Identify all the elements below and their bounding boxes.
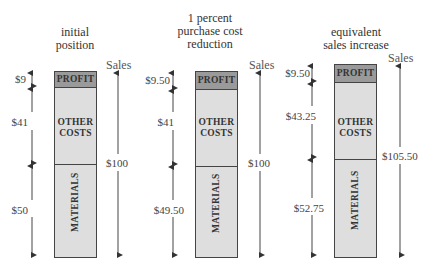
dimension-arrows	[280, 0, 430, 272]
panel-purchase-cost-reduction: 1 percent purchase cost reduction Sales …	[140, 0, 280, 272]
dimension-arrows	[140, 0, 280, 272]
panel-initial-position: initial position Sales PROFIT OTHER COST…	[0, 0, 140, 272]
panel-equivalent-sales-increase: equivalent sales increase Sales PROFIT O…	[280, 0, 430, 272]
dimension-arrows	[0, 0, 140, 272]
